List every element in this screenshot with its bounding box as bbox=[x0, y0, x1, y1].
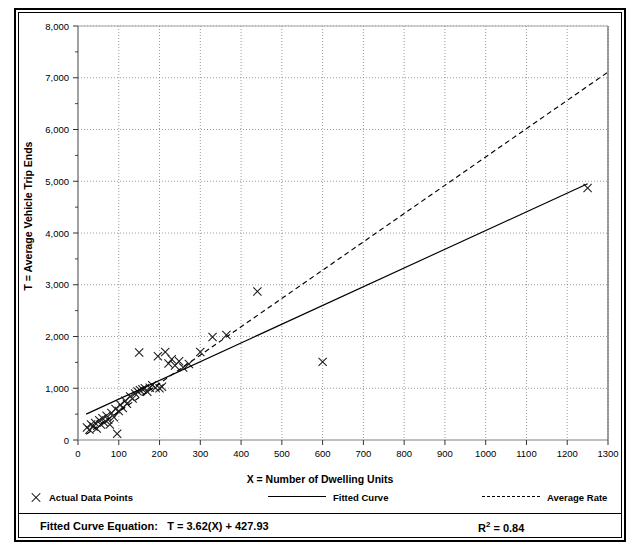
svg-text:0: 0 bbox=[64, 435, 69, 446]
svg-text:100: 100 bbox=[111, 448, 127, 459]
svg-text:900: 900 bbox=[437, 448, 453, 459]
svg-text:6,000: 6,000 bbox=[45, 124, 69, 135]
footer-divider bbox=[18, 513, 622, 514]
chart-figure: 01,0002,0003,0004,0005,0006,0007,0008,00… bbox=[0, 0, 640, 550]
svg-text:1,000: 1,000 bbox=[45, 383, 69, 394]
svg-text:7,000: 7,000 bbox=[45, 72, 69, 83]
legend-label-actual: Actual Data Points bbox=[49, 492, 133, 503]
legend-item-actual-data-points: Actual Data Points bbox=[30, 491, 133, 505]
legend-item-average-rate: Average Rate bbox=[482, 491, 607, 505]
svg-text:2,000: 2,000 bbox=[45, 331, 69, 342]
legend-item-fitted-curve: Fitted Curve bbox=[268, 491, 388, 505]
svg-text:300: 300 bbox=[192, 448, 208, 459]
equation-value: T = 3.62(X) + 427.93 bbox=[167, 520, 269, 532]
svg-text:1000: 1000 bbox=[475, 448, 496, 459]
fitted-curve-line bbox=[86, 184, 587, 414]
average-rate-line bbox=[86, 72, 608, 434]
svg-text:600: 600 bbox=[315, 448, 331, 459]
svg-text:700: 700 bbox=[355, 448, 371, 459]
svg-text:3,000: 3,000 bbox=[45, 279, 69, 290]
solid-line-icon bbox=[268, 496, 326, 497]
svg-text:800: 800 bbox=[396, 448, 412, 459]
axis-ticks bbox=[73, 26, 608, 445]
svg-text:8,000: 8,000 bbox=[45, 21, 69, 32]
svg-text:400: 400 bbox=[233, 448, 249, 459]
legend-label-average: Average Rate bbox=[547, 492, 607, 503]
fitted-curve-equation: Fitted Curve Equation: T = 3.62(X) + 427… bbox=[40, 520, 269, 532]
x-marker-icon bbox=[30, 492, 42, 504]
x-axis-title: X = Number of Dwelling Units bbox=[0, 473, 640, 485]
rsq-number: = 0.84 bbox=[490, 522, 524, 534]
svg-text:1200: 1200 bbox=[557, 448, 578, 459]
dashed-line-icon bbox=[482, 496, 540, 497]
legend-label-fitted: Fitted Curve bbox=[333, 492, 388, 503]
svg-text:200: 200 bbox=[152, 448, 168, 459]
svg-text:1300: 1300 bbox=[597, 448, 618, 459]
equation-label: Fitted Curve Equation: bbox=[40, 520, 158, 532]
r-squared-value: R2 = 0.84 bbox=[478, 520, 524, 534]
svg-text:1100: 1100 bbox=[516, 448, 536, 459]
grid-lines bbox=[78, 26, 608, 440]
chart-legend: Actual Data Points Fitted Curve Average … bbox=[20, 491, 620, 511]
plot-canvas: 01,0002,0003,0004,0005,0006,0007,0008,00… bbox=[0, 0, 640, 550]
data-series-layer bbox=[83, 72, 608, 438]
svg-text:0: 0 bbox=[75, 448, 80, 459]
svg-text:500: 500 bbox=[274, 448, 290, 459]
y-axis-title: T = Average Vehicle Trip Ends bbox=[22, 126, 34, 306]
svg-text:5,000: 5,000 bbox=[45, 176, 69, 187]
rsq-label: R bbox=[478, 522, 486, 534]
svg-text:4,000: 4,000 bbox=[45, 228, 69, 239]
